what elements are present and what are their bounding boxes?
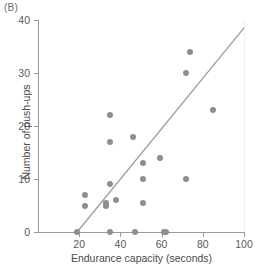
x-axis-line [38,232,245,233]
y-tick-label: 20 [12,120,30,132]
x-tick-mark [203,233,204,237]
data-point [132,229,138,235]
x-tick-label: 60 [156,238,168,250]
y-tick-label: 30 [12,67,30,79]
x-tick-label: 80 [197,238,209,250]
x-tick-mark [120,233,121,237]
data-point [183,176,189,182]
data-point [140,200,146,206]
x-tick-label: 40 [115,238,127,250]
data-point [210,107,216,113]
panel-label: (B) [4,2,18,13]
data-point [157,155,163,161]
scatter-plot-figure: (B) Endurance capacity (seconds) Number … [0,0,255,267]
y-tick-label: 0 [12,226,30,238]
x-tick-label: 20 [73,238,85,250]
data-point [107,229,113,235]
data-point [163,229,169,235]
data-point [140,176,146,182]
data-point [107,112,113,118]
x-tick-mark [244,233,245,237]
data-point [183,70,189,76]
data-point [107,139,113,145]
y-tick-label: 40 [12,14,30,26]
data-point [82,203,88,209]
x-tick-label: 100 [235,238,253,250]
data-point [74,229,80,235]
data-point [130,134,136,140]
data-point [113,197,119,203]
data-point [140,160,146,166]
x-axis-title: Endurance capacity (seconds) [38,252,245,264]
data-point [82,192,88,198]
data-point [187,49,193,55]
data-point [103,203,109,209]
data-point [107,181,113,187]
plot-area [38,20,244,232]
y-tick-mark [34,232,38,233]
y-tick-label: 10 [12,173,30,185]
plot-right-edge [244,20,245,233]
